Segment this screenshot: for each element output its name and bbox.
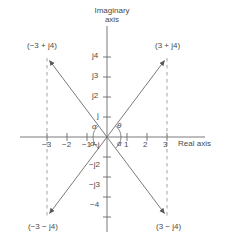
y-tick-label-minus-j4: −4 xyxy=(90,200,99,209)
x-tick-label-minus-2: −2 xyxy=(62,140,71,149)
complex-plane-diagram: Imaginary axis Real axis (−3 + j4) (3 + … xyxy=(0,0,225,241)
point-label-bottom-right: (3 − j4) xyxy=(156,222,181,231)
x-tick-label-1: 1 xyxy=(124,140,128,149)
imaginary-axis-title-line2: axis xyxy=(83,15,141,24)
x-tick-label-2: 2 xyxy=(143,140,147,149)
y-tick-label-j3: j3 xyxy=(92,71,98,80)
y-tick-label-j2: j2 xyxy=(92,91,98,100)
x-tick-label-minus-3: −3 xyxy=(42,140,51,149)
y-tick-label-j4: j4 xyxy=(92,51,98,60)
x-tick-label-3: 3 xyxy=(163,140,167,149)
y-tick-label-minus-j2: −j2 xyxy=(89,160,100,169)
y-tick-label-minus-j3: −j3 xyxy=(89,180,100,189)
angle-label-alpha-upper-left: α xyxy=(92,122,97,131)
point-label-top-left: (−3 + j4) xyxy=(27,41,57,50)
imaginary-axis-title: Imaginary axis xyxy=(83,6,141,24)
angle-label-theta-upper-right: θ xyxy=(117,121,121,130)
point-label-top-right: (3 + j4) xyxy=(155,41,180,50)
y-tick-label-j1: j xyxy=(97,111,99,120)
angle-label-alpha-lower-right: α xyxy=(117,139,122,148)
real-axis-title: Real axis xyxy=(178,139,211,148)
imaginary-axis-title-line1: Imaginary xyxy=(83,6,141,15)
diagram-canvas xyxy=(0,0,225,241)
angle-label-alpha-lower-left: α xyxy=(90,139,95,148)
point-label-bottom-left: (−3 − j4) xyxy=(28,222,58,231)
